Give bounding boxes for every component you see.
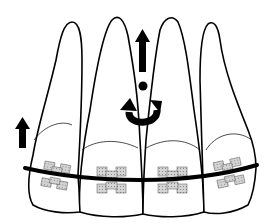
intrusion-arrow-lateral-icon [15,117,30,148]
dental-diagram [0,0,275,224]
intrusion-arrow-central-icon [135,29,150,72]
diagram-canvas [0,0,275,224]
center-of-resistance-dot [139,82,148,91]
